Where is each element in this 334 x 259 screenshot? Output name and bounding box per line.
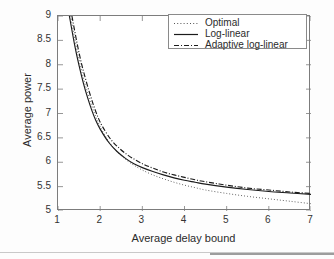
y-tick-label: 5: [17, 205, 51, 215]
x-tick-label: 3: [131, 215, 151, 225]
legend-label-optimal: Optimal: [205, 18, 239, 28]
x-tick-label: 2: [89, 215, 109, 225]
legend-box: Optimal Log-linear Adaptive log-linear: [168, 14, 307, 49]
legend-item-optimal: Optimal: [173, 18, 302, 28]
legend-sample-dashdot-icon: [173, 41, 199, 50]
y-tick-label: 9: [17, 10, 51, 20]
x-tick-label: 6: [258, 215, 278, 225]
y-axis-title: Average power: [21, 40, 33, 180]
x-axis-title: Average delay bound: [57, 232, 310, 244]
figure-canvas: 55.566.577.588.59 1234567 Average delay …: [0, 0, 334, 259]
legend-sample-dotted-icon: [173, 19, 199, 28]
legend-item-log-linear: Log-linear: [173, 29, 302, 39]
x-tick-label: 4: [174, 215, 194, 225]
legend-sample-solid-icon: [173, 30, 199, 39]
x-tick-label: 5: [216, 215, 236, 225]
legend-label-log-linear: Log-linear: [205, 29, 249, 39]
x-tick-label: 7: [300, 215, 320, 225]
y-tick-label: 5.5: [17, 181, 51, 191]
legend-item-adaptive-log-linear: Adaptive log-linear: [173, 40, 302, 50]
page-edge-artifact-dark: [210, 253, 334, 255]
x-tick-label: 1: [47, 215, 67, 225]
legend-label-adaptive-log-linear: Adaptive log-linear: [205, 40, 288, 50]
